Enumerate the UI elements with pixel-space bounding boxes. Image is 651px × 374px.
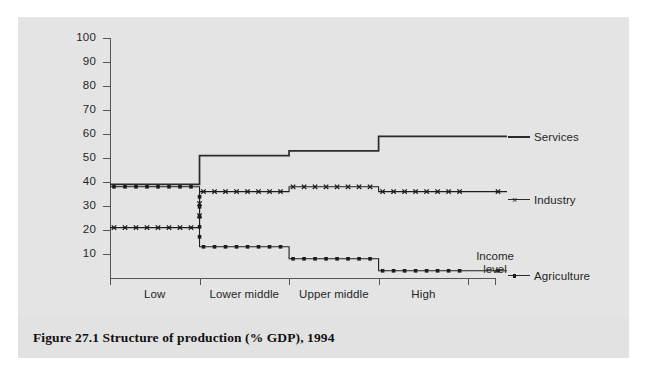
- x-axis-title-line1: Income: [468, 250, 522, 263]
- marker-square: [357, 257, 361, 261]
- series-plot: [110, 38, 495, 278]
- y-axis-tick: [103, 38, 110, 39]
- figure-root: 102030405060708090100 LowLower middleUpp…: [0, 0, 651, 374]
- y-axis-tick: [103, 62, 110, 63]
- marker-square: [167, 185, 171, 189]
- marker-square: [447, 269, 451, 273]
- x-axis-tick: [289, 278, 290, 285]
- marker-square: [257, 245, 261, 249]
- marker-square: [198, 235, 202, 239]
- marker-square: [198, 225, 202, 229]
- marker-square: [202, 245, 206, 249]
- marker-square: [123, 185, 127, 189]
- legend-item-services: Services: [508, 131, 579, 143]
- x-axis-category-label: High: [379, 288, 469, 300]
- marker-square: [189, 185, 193, 189]
- marker-square: [198, 205, 202, 209]
- marker-square: [436, 269, 440, 273]
- y-axis-tick-label: 20: [62, 223, 96, 235]
- marker-square: [134, 185, 138, 189]
- series-industry: [110, 185, 507, 230]
- legend-item-agriculture: Agriculture: [508, 270, 590, 282]
- marker-square: [368, 257, 372, 261]
- marker-square: [235, 245, 239, 249]
- y-axis-tick-label: 30: [62, 199, 96, 211]
- x-axis-line: [110, 278, 495, 279]
- x-axis-tick: [110, 278, 111, 285]
- marker-square: [392, 269, 396, 273]
- x-axis-category-label: Upper middle: [289, 288, 379, 300]
- y-axis-tick: [103, 110, 110, 111]
- marker-square: [302, 257, 306, 261]
- y-axis-tick: [103, 158, 110, 159]
- x-axis-tick: [468, 278, 469, 285]
- legend-item-industry: × Industry: [508, 194, 576, 206]
- marker-square: [425, 269, 429, 273]
- marker-square: [198, 195, 202, 199]
- marker-square: [224, 245, 228, 249]
- marker-square: [324, 257, 328, 261]
- marker-square: [268, 245, 272, 249]
- marker-square: [156, 185, 160, 189]
- y-axis-tick-label: 80: [62, 79, 96, 91]
- marker-square: [381, 269, 385, 273]
- marker-square: [414, 269, 418, 273]
- x-axis-category-label: Low: [110, 288, 200, 300]
- y-axis-tick-label: 60: [62, 127, 96, 139]
- x-axis-tick: [200, 278, 201, 285]
- x-axis-tick: [379, 278, 380, 285]
- y-axis-tick: [103, 86, 110, 87]
- marker-square: [246, 245, 250, 249]
- marker-square: [313, 257, 317, 261]
- y-axis-tick-label: 100: [62, 31, 96, 43]
- y-axis-tick: [103, 254, 110, 255]
- y-axis-tick-label: 50: [62, 151, 96, 163]
- legend-square-marker-icon: [513, 274, 516, 277]
- legend-label-industry: Industry: [508, 194, 576, 206]
- marker-square: [335, 257, 339, 261]
- y-axis-tick: [103, 182, 110, 183]
- series-services: [110, 136, 507, 184]
- x-axis-category-label: Lower middle: [200, 288, 290, 300]
- y-axis-tick-label: 10: [62, 247, 96, 259]
- marker-square: [458, 269, 462, 273]
- y-axis-tick-label: 70: [62, 103, 96, 115]
- series-line-services: [110, 136, 507, 184]
- marker-square: [291, 257, 295, 261]
- marker-square: [403, 269, 407, 273]
- marker-square: [213, 245, 217, 249]
- y-axis-tick-label: 90: [62, 55, 96, 67]
- legend-line-services-icon: [508, 136, 530, 138]
- marker-square: [279, 245, 283, 249]
- x-axis-end-tick: [495, 278, 496, 285]
- plot-area: [110, 38, 495, 278]
- legend-label-agriculture: Agriculture: [508, 270, 590, 282]
- y-axis-tick-label: 40: [62, 175, 96, 187]
- legend-line-agriculture-icon: [508, 275, 530, 276]
- legend-cross-marker-icon: ×: [512, 198, 517, 202]
- marker-square: [178, 185, 182, 189]
- y-axis-tick: [103, 134, 110, 135]
- figure-caption: Figure 27.1 Structure of production (% G…: [33, 330, 335, 346]
- y-axis-tick: [103, 230, 110, 231]
- marker-square: [346, 257, 350, 261]
- marker-square: [145, 185, 149, 189]
- marker-square: [198, 215, 202, 219]
- marker-square: [112, 185, 116, 189]
- y-axis-tick: [103, 206, 110, 207]
